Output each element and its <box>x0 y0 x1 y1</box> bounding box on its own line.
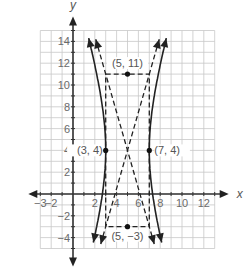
y-tick-label: −2 <box>57 210 70 222</box>
x-axis-arrow-right-icon <box>220 190 229 198</box>
y-tick-label: 6 <box>64 123 70 135</box>
hyperbola-right-branch <box>149 38 166 242</box>
x-axis-label: x <box>236 187 244 201</box>
asymptote-2 <box>96 39 155 244</box>
data-point <box>147 148 152 153</box>
hyperbola-left-branch <box>89 38 106 242</box>
x-tick-label: 4 <box>114 197 120 209</box>
data-point <box>125 224 130 229</box>
y-axis-label: y <box>69 0 77 12</box>
data-point <box>125 72 130 77</box>
x-tick-label: 8 <box>157 197 163 209</box>
y-axis-arrow-up-icon <box>69 17 77 26</box>
y-tick-label: −4 <box>57 232 70 244</box>
asymptote-1 <box>101 39 160 244</box>
x-tick-label: 2 <box>92 197 98 209</box>
y-tick-label: 12 <box>58 57 70 69</box>
y-tick-label: 2 <box>64 166 70 178</box>
x-tick-label: 12 <box>198 197 210 209</box>
point-label: (5, −3) <box>111 230 143 242</box>
hyperbola-graph: xy −3−224681012−4−22468101214 (3, 4)(7, … <box>0 0 249 278</box>
x-tick-label: 6 <box>135 197 141 209</box>
data-point <box>103 148 108 153</box>
point-label: (7, 4) <box>154 144 180 156</box>
x-tick-label: −2 <box>45 197 58 209</box>
point-label: (5, 11) <box>112 57 143 69</box>
y-axis-arrow-down-icon <box>69 258 77 267</box>
y-tick-label: 10 <box>58 79 70 91</box>
x-tick-label: 10 <box>176 197 188 209</box>
y-tick-label: 14 <box>58 35 70 47</box>
arrow-up-icon <box>87 38 95 48</box>
arrow-up-icon <box>160 38 168 48</box>
point-label: (3, 4) <box>77 144 103 156</box>
y-tick-label: 8 <box>64 101 70 113</box>
